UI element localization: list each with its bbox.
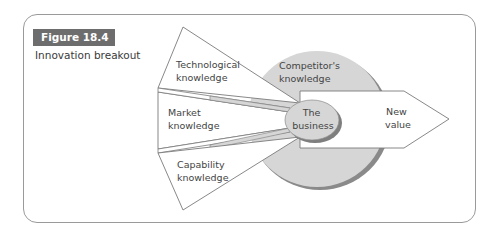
innovation-breakout-diagram: Technological knowledge Market knowledge… [0, 0, 502, 234]
